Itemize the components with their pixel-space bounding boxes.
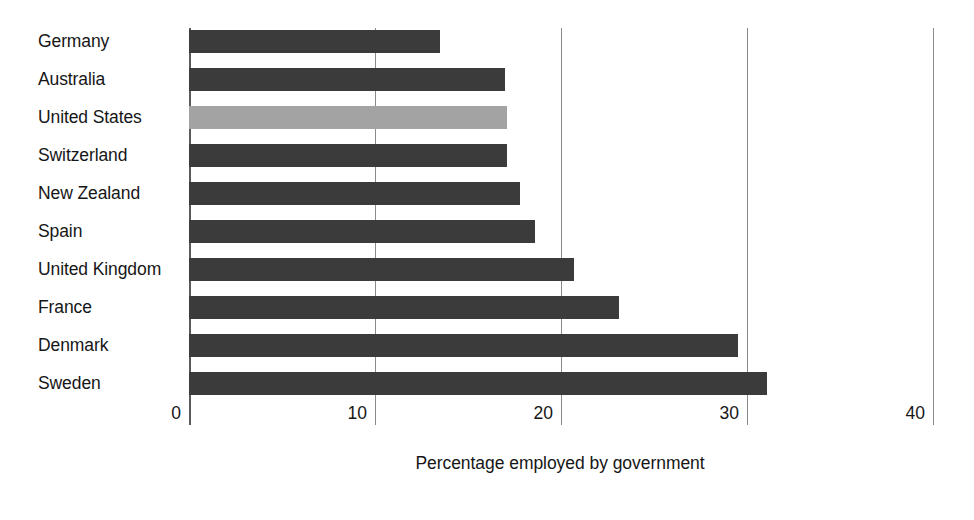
category-label: Spain [38, 220, 82, 243]
bar [189, 68, 505, 91]
category-label: Sweden [38, 372, 101, 395]
bar [189, 372, 767, 395]
bar-row: United Kingdom [0, 258, 974, 281]
bar-row: Germany [0, 30, 974, 53]
bar [189, 334, 738, 357]
bar-row: Denmark [0, 334, 974, 357]
category-label: Denmark [38, 334, 108, 357]
category-label: Switzerland [38, 144, 127, 167]
bar-row: Spain [0, 220, 974, 243]
category-label: United Kingdom [38, 258, 161, 281]
bar [189, 30, 440, 53]
bar [189, 220, 535, 243]
bar-row: United States [0, 106, 974, 129]
category-label: New Zealand [38, 182, 140, 205]
bar-row: New Zealand [0, 182, 974, 205]
bar-row: Sweden [0, 372, 974, 395]
category-label: United States [38, 106, 142, 129]
x-tick-label: 0 [125, 403, 181, 423]
bar [189, 258, 574, 281]
bar [189, 296, 619, 319]
bar [189, 106, 507, 129]
category-label: Germany [38, 30, 109, 53]
category-label: Australia [38, 68, 105, 91]
x-tick-label: 30 [683, 403, 739, 423]
bar-chart: 010203040GermanyAustraliaUnited StatesSw… [0, 0, 974, 520]
category-label: France [38, 296, 92, 319]
plot-area: 010203040GermanyAustraliaUnited StatesSw… [0, 0, 974, 520]
bar-row: Switzerland [0, 144, 974, 167]
bar-row: France [0, 296, 974, 319]
x-tick-label: 10 [311, 403, 367, 423]
bar [189, 182, 520, 205]
bar-row: Australia [0, 68, 974, 91]
x-tick-label: 20 [497, 403, 553, 423]
bar [189, 144, 507, 167]
x-axis-title: Percentage employed by government [0, 452, 974, 474]
x-tick-label: 40 [869, 403, 925, 423]
